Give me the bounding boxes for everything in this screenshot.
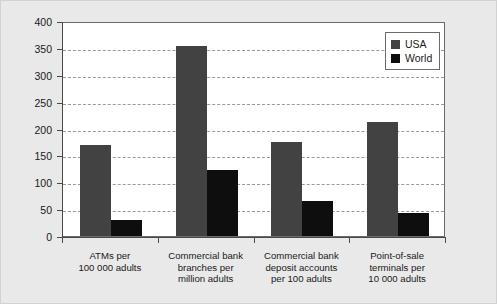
legend-item-world[interactable]: World (391, 51, 432, 65)
y-axis-tick-mark (57, 130, 63, 131)
legend-swatch-icon (391, 54, 400, 63)
bar-world-2 (302, 201, 333, 236)
x-axis-category-label-2: Commercial bankdeposit accountsper 100 a… (254, 250, 350, 285)
bar-world-3 (398, 213, 429, 236)
bar-usa-1 (176, 46, 207, 236)
y-axis-tick-label: 0 (6, 232, 52, 242)
x-axis-tick-mark (254, 237, 255, 243)
y-axis-tick-label: 100 (6, 178, 52, 188)
x-axis-category-label-line: Commercial bank (254, 250, 350, 262)
x-axis-category-label-3: Point-of-saleterminals per10 000 adults (349, 250, 445, 285)
y-axis-tick-value: 150 (8, 151, 52, 161)
y-axis-tick-label: 50 (6, 205, 52, 215)
y-axis-tick-mark (57, 103, 63, 104)
bar-usa-3 (367, 122, 398, 236)
bar-chart-figure: 050100150200250300350400 USAWorld ATMs p… (0, 0, 497, 304)
x-axis-category-label-line: Commercial bank (158, 250, 254, 262)
plot-area: USAWorld (62, 22, 445, 237)
bar-usa-2 (271, 142, 302, 236)
x-axis-category-label-line: terminals per (349, 262, 445, 274)
x-axis-category-label-line: 100 000 adults (62, 262, 158, 274)
y-axis-tick-value: 50 (8, 205, 52, 215)
legend-label: USA (405, 39, 427, 50)
x-axis-category-label-0: ATMs per100 000 adults (62, 250, 158, 273)
y-axis-tick-label: 350 (6, 44, 52, 54)
y-axis-tick-value: 350 (8, 44, 52, 54)
y-axis-tick-label: 150 (6, 151, 52, 161)
x-axis-tick-mark (445, 237, 446, 243)
x-axis-category-label-line: ATMs per (62, 250, 158, 262)
y-axis-tick-label: 300 (6, 71, 52, 81)
legend-item-usa[interactable]: USA (391, 37, 432, 51)
y-axis-tick-value: 0 (8, 232, 52, 242)
x-axis-category-label-line: branches per (158, 262, 254, 274)
y-axis-tick-value: 300 (8, 71, 52, 81)
y-axis-tick-value: 200 (8, 125, 52, 135)
legend: USAWorld (385, 32, 440, 70)
bar-world-1 (207, 170, 238, 236)
y-axis-tick-label: 200 (6, 125, 52, 135)
y-axis-tick-mark (57, 76, 63, 77)
legend-swatch-icon (391, 40, 400, 49)
y-axis-tick-mark (57, 49, 63, 50)
y-axis-tick-value: 250 (8, 98, 52, 108)
x-axis-category-label-line: 10 000 adults (349, 273, 445, 285)
x-axis-tick-mark (62, 237, 63, 243)
bar-usa-0 (80, 145, 111, 236)
y-axis-tick-mark (57, 156, 63, 157)
y-axis-tick-mark (57, 22, 63, 23)
y-axis-tick-value: 400 (8, 17, 52, 27)
bar-world-0 (111, 220, 142, 236)
y-axis-tick-label: 400 (6, 17, 52, 27)
y-axis-tick-mark (57, 210, 63, 211)
legend-label: World (405, 53, 432, 64)
y-axis-tick-label: 250 (6, 98, 52, 108)
x-axis-tick-mark (158, 237, 159, 243)
x-axis-category-label-line: million adults (158, 273, 254, 285)
x-axis-tick-mark (349, 237, 350, 243)
x-axis-category-label-line: Point-of-sale (349, 250, 445, 262)
x-axis-category-label-line: deposit accounts (254, 262, 350, 274)
x-axis-category-label-line: per 100 adults (254, 273, 350, 285)
x-axis-category-label-1: Commercial bankbranches permillion adult… (158, 250, 254, 285)
y-axis-tick-value: 100 (8, 178, 52, 188)
y-axis-tick-mark (57, 183, 63, 184)
